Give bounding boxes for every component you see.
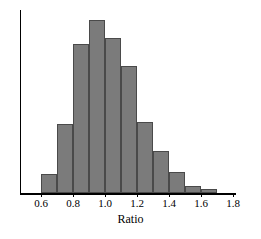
histogram-bar bbox=[153, 151, 169, 193]
histogram-bar bbox=[105, 38, 121, 193]
histogram-bar bbox=[137, 122, 153, 193]
histogram-bar bbox=[169, 172, 185, 193]
x-axis-label: Ratio bbox=[0, 212, 261, 227]
x-tick-label: 1.8 bbox=[213, 197, 253, 210]
y-axis-line bbox=[20, 10, 21, 194]
histogram-bar bbox=[121, 66, 137, 193]
histogram-bar bbox=[73, 44, 89, 193]
histogram-bar bbox=[57, 124, 73, 193]
histogram-bar bbox=[89, 20, 105, 193]
x-axis-line bbox=[20, 193, 236, 195]
histogram-figure: 0.60.81.01.21.41.61.8 Ratio bbox=[0, 0, 261, 239]
histogram-bar bbox=[185, 186, 201, 193]
plot-area bbox=[0, 0, 261, 193]
histogram-bar bbox=[41, 174, 57, 193]
